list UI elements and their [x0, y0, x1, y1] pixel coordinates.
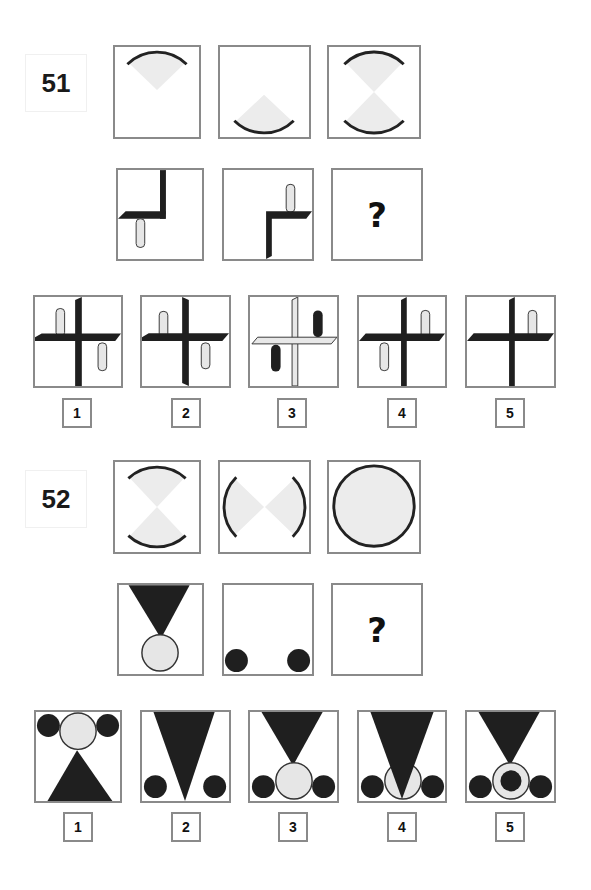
q51-option-label-1[interactable]: 1: [62, 398, 92, 428]
q52-sequence-2-1: [117, 583, 204, 676]
q51-option-label-4[interactable]: 4: [387, 398, 417, 428]
l-shape-with-pill-icon: [118, 170, 202, 259]
q51-option-5[interactable]: [465, 295, 556, 388]
cross-with-pills-icon: [359, 297, 445, 386]
q51-option-3[interactable]: [248, 295, 339, 388]
arc-sectors-left-right-icon: [220, 462, 309, 552]
q51-sequence-1-1: [113, 45, 201, 139]
q51-option-label-5[interactable]: 5: [495, 398, 525, 428]
q51-sequence-2-3-unknown: ?: [331, 168, 423, 261]
q52-option-1[interactable]: [34, 710, 122, 803]
q52-option-5[interactable]: [465, 710, 556, 803]
question-number-51: 51: [25, 54, 87, 112]
triangle-with-light-circle-icon: [119, 585, 202, 674]
q52-option-4[interactable]: [357, 710, 447, 803]
l-shape-with-pill-icon: [224, 170, 312, 259]
arc-sectors-top-bottom-icon: [115, 462, 199, 552]
question-mark: ?: [333, 585, 421, 674]
question-number-52: 52: [25, 470, 87, 528]
arc-sector-bottom-icon: [220, 47, 309, 137]
upright-triangle-circles-icon: [36, 712, 120, 801]
q52-option-label-1[interactable]: 1: [63, 812, 93, 842]
arc-sectors-top-bottom-icon: [329, 47, 419, 137]
q52-sequence-2-3-unknown: ?: [331, 583, 423, 676]
question-mark: ?: [333, 170, 421, 259]
q51-sequence-1-3: [327, 45, 421, 139]
q51-sequence-1-2: [218, 45, 311, 139]
q51-option-2[interactable]: [140, 295, 231, 388]
q51-option-4[interactable]: [357, 295, 447, 388]
q52-sequence-1-3: [327, 460, 421, 554]
q52-sequence-2-2: [222, 583, 314, 676]
inverted-triangle-circles-icon: [142, 712, 229, 801]
q52-option-3[interactable]: [248, 710, 339, 803]
cross-with-pills-icon: [142, 297, 229, 386]
q52-sequence-1-2: [218, 460, 311, 554]
q52-option-label-3[interactable]: 3: [278, 812, 308, 842]
q52-sequence-1-1: [113, 460, 201, 554]
q52-option-label-2[interactable]: 2: [171, 812, 201, 842]
q52-option-label-5[interactable]: 5: [495, 812, 525, 842]
q52-option-label-4[interactable]: 4: [387, 812, 417, 842]
two-dark-circles-icon: [224, 585, 312, 674]
inverted-triangle-light-circle-icon: [250, 712, 337, 801]
q51-option-label-3[interactable]: 3: [277, 398, 307, 428]
cross-with-pill-icon: [467, 297, 554, 386]
q51-sequence-2-1: [116, 168, 204, 261]
q51-option-1[interactable]: [33, 295, 123, 388]
full-circle-icon: [329, 462, 419, 552]
q52-option-2[interactable]: [140, 710, 231, 803]
light-cross-with-dark-pills-icon: [250, 297, 337, 386]
q51-option-label-2[interactable]: 2: [171, 398, 201, 428]
inverted-triangle-ring-icon: [467, 712, 554, 801]
arc-sector-top-icon: [115, 47, 199, 137]
q51-sequence-2-2: [222, 168, 314, 261]
inverted-triangle-over-circle-icon: [359, 712, 445, 801]
cross-with-pills-icon: [35, 297, 121, 386]
